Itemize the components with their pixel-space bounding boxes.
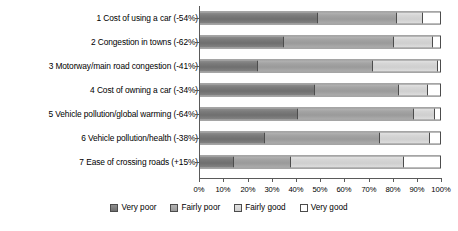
- x-tick-label: 60%: [336, 185, 351, 194]
- x-axis-tick: [199, 178, 200, 182]
- legend-label: Fairly poor: [181, 203, 220, 212]
- legend-label: Fairly good: [245, 203, 286, 212]
- x-tick-label: 40%: [288, 185, 303, 194]
- x-axis-tick: [393, 178, 394, 182]
- category-label: 6 Vehicle pollution/health (-38%): [81, 133, 198, 143]
- x-axis-tick: [223, 178, 224, 182]
- chart-row: 5 Vehicle pollution/global warming (-64%…: [0, 102, 458, 126]
- segment-fairly-poor: [234, 157, 292, 168]
- segment-fairly-good: [380, 133, 430, 144]
- segment-very-poor: [200, 61, 258, 72]
- segment-fairly-poor: [284, 37, 394, 48]
- category-label: 1 Cost of using a car (-54%): [97, 13, 198, 23]
- stacked-bar: [199, 84, 441, 97]
- segment-fairly-good: [414, 109, 436, 120]
- segment-very-good: [435, 109, 440, 120]
- x-tick-label: 20%: [240, 185, 255, 194]
- legend-label: Very good: [311, 203, 348, 212]
- y-axis-tick: [195, 18, 199, 19]
- x-tick-label: 70%: [361, 185, 376, 194]
- chart-row: 6 Vehicle pollution/health (-38%): [0, 126, 458, 150]
- bar-rows: 1 Cost of using a car (-54%) 2 Congestio…: [0, 6, 458, 178]
- segment-very-good: [430, 133, 440, 144]
- segment-very-good: [428, 85, 440, 96]
- segment-fairly-poor: [258, 61, 373, 72]
- legend-swatch-icon: [300, 204, 308, 212]
- x-tick-label: 80%: [385, 185, 400, 194]
- y-axis-tick: [195, 42, 199, 43]
- x-tick-label: 100%: [431, 185, 450, 194]
- segment-fairly-poor: [298, 109, 413, 120]
- chart-row: 2 Congestion in towns (-62%): [0, 30, 458, 54]
- segment-fairly-poor: [265, 133, 380, 144]
- x-axis-tick-labels: 0% 10% 20% 30% 40% 50% 60% 70% 80% 90% 1…: [0, 185, 458, 199]
- stacked-bar: [199, 12, 441, 25]
- legend-swatch-icon: [110, 204, 118, 212]
- chart-row: 4 Cost of owning a car (-34%): [0, 78, 458, 102]
- x-axis-tick: [441, 178, 442, 182]
- legend-item-very-good: Very good: [300, 203, 348, 212]
- legend-swatch-icon: [170, 204, 178, 212]
- legend-label: Very poor: [121, 203, 156, 212]
- plot-area: 1 Cost of using a car (-54%) 2 Congestio…: [0, 6, 458, 181]
- x-axis-tick: [272, 178, 273, 182]
- segment-very-poor: [200, 109, 298, 120]
- x-axis-tick: [296, 178, 297, 182]
- y-axis-tick: [195, 66, 199, 67]
- segment-very-poor: [200, 37, 284, 48]
- segment-fairly-good: [291, 157, 404, 168]
- segment-fairly-good: [394, 37, 432, 48]
- category-label: 7 Ease of crossing roads (+15%): [79, 157, 198, 167]
- y-axis-tick: [195, 162, 199, 163]
- segment-very-good: [438, 61, 440, 72]
- x-axis-tick: [320, 178, 321, 182]
- segment-very-poor: [200, 157, 234, 168]
- category-label: 2 Congestion in towns (-62%): [91, 37, 198, 47]
- segment-very-good: [423, 13, 440, 24]
- segment-very-poor: [200, 13, 318, 24]
- y-axis-tick: [195, 90, 199, 91]
- segment-fairly-poor: [315, 85, 399, 96]
- segment-fairly-good: [397, 13, 423, 24]
- y-axis-line: [199, 6, 200, 178]
- stacked-bar: [199, 108, 441, 121]
- x-tick-label: 10%: [215, 185, 230, 194]
- segment-very-poor: [200, 133, 265, 144]
- x-axis-tick: [248, 178, 249, 182]
- segment-fairly-good: [373, 61, 438, 72]
- legend-item-fairly-poor: Fairly poor: [170, 203, 220, 212]
- x-tick-label: 0%: [194, 185, 205, 194]
- category-label: 4 Cost of owning a car (-34%): [90, 85, 198, 95]
- category-label: 3 Motorway/main road congestion (-41%): [49, 61, 198, 71]
- segment-fairly-poor: [318, 13, 397, 24]
- x-axis-tick: [369, 178, 370, 182]
- y-axis-tick: [195, 138, 199, 139]
- legend-item-very-poor: Very poor: [110, 203, 156, 212]
- segment-very-good: [404, 157, 440, 168]
- chart-row: 3 Motorway/main road congestion (-41%): [0, 54, 458, 78]
- segment-very-good: [433, 37, 440, 48]
- segment-very-poor: [200, 85, 315, 96]
- legend-item-fairly-good: Fairly good: [234, 203, 286, 212]
- x-axis-tick: [344, 178, 345, 182]
- stacked-bar-chart: 1 Cost of using a car (-54%) 2 Congestio…: [0, 0, 458, 231]
- chart-row: 1 Cost of using a car (-54%): [0, 6, 458, 30]
- chart-row: 7 Ease of crossing roads (+15%): [0, 150, 458, 174]
- x-axis-tick: [417, 178, 418, 182]
- segment-fairly-good: [399, 85, 428, 96]
- x-tick-label: 50%: [312, 185, 327, 194]
- category-label: 5 Vehicle pollution/global warming (-64%…: [48, 109, 198, 119]
- stacked-bar: [199, 132, 441, 145]
- x-tick-label: 90%: [409, 185, 424, 194]
- chart-legend: Very poor Fairly poor Fairly good Very g…: [0, 203, 458, 212]
- legend-swatch-icon: [234, 204, 242, 212]
- stacked-bar: [199, 60, 441, 73]
- stacked-bar: [199, 156, 441, 169]
- y-axis-tick: [195, 114, 199, 115]
- x-tick-label: 30%: [264, 185, 279, 194]
- stacked-bar: [199, 36, 441, 49]
